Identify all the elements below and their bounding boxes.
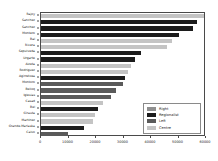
legend-item: Centre [147,125,197,131]
bar-row [41,39,206,43]
bar-row [41,70,206,74]
x-tick-label: 50000 [172,140,183,144]
bar-row [41,76,206,80]
y-tick-mark [37,70,39,71]
legend-swatch [147,126,156,130]
bar [41,70,128,74]
bar [41,132,68,136]
y-tick-label: Iglesias [23,94,35,97]
y-tick-mark [37,108,39,109]
y-tick-mark [37,83,39,84]
y-tick-mark [37,120,39,121]
bar [41,64,131,68]
y-tick-label: Rivera [25,44,35,47]
y-tick-mark [37,33,39,34]
y-tick-mark [37,114,39,115]
y-tick-mark [37,15,39,16]
y-tick-label: Montero [22,32,35,35]
bar [41,76,125,80]
y-tick-mark [37,101,39,102]
y-tick-mark [37,39,39,40]
bar [41,119,93,123]
legend-label: Right [159,107,168,111]
y-tick-label: Bel [30,106,35,109]
y-tick-label: Grande-Marlaska [9,125,35,128]
bar-chart-figure: RajoySanchezSanchezMonteroBalRiveraSepul… [0,0,218,161]
y-tick-mark [37,126,39,127]
x-tick-mark [40,136,41,138]
y-tick-mark [37,132,39,133]
x-tick-mark [178,136,179,138]
bar [41,20,197,24]
bar [41,39,172,43]
y-tick-mark [37,64,39,65]
legend-swatch [147,119,156,123]
y-tick-mark [37,21,39,22]
bar [41,88,116,92]
y-axis-labels: RajoySanchezSanchezMonteroBalRiveraSepul… [0,12,38,136]
y-tick-label: Martinez [22,119,35,122]
bar [41,57,135,61]
bar-row [41,14,206,18]
y-tick-label: Rajoy [26,13,35,16]
bar-row [41,26,206,30]
bar [41,33,179,37]
bar-row [41,45,206,49]
y-tick-mark [37,52,39,53]
x-tick-label: 60000 [200,140,211,144]
legend-swatch [147,107,156,111]
y-tick-label: Rodriguez [20,69,35,72]
x-tick-label: 40000 [145,140,156,144]
y-tick-label: Sanchez [22,26,35,29]
x-tick-label: 10000 [62,140,73,144]
bar-row [41,95,206,99]
bar [41,45,167,49]
bar [41,26,193,30]
y-tick-label: Belloq [25,88,35,91]
x-tick-mark [205,136,206,138]
y-tick-mark [37,89,39,90]
bar [41,51,141,55]
y-tick-mark [37,77,39,78]
legend-swatch [147,113,156,117]
y-tick-label: Agirretxea [19,75,35,78]
legend-label: Regionalist [159,113,179,117]
x-tick-label: 30000 [117,140,128,144]
bar-row [41,64,206,68]
bar [41,107,98,111]
bar [41,95,111,99]
bar [41,126,84,130]
x-axis-labels: 0100002000030000400005000060000 [40,137,205,149]
bar [41,113,95,117]
y-tick-label: Sanchez [22,20,35,23]
y-tick-label: Sepulveda [19,51,35,54]
x-tick-mark [123,136,124,138]
y-tick-label: Girauta [24,113,36,116]
legend-label: Left [159,119,166,123]
y-tick-mark [37,46,39,47]
y-tick-label: Aizeta [25,63,35,66]
bar [41,101,103,105]
y-tick-label: Montoro [22,82,35,85]
x-tick-mark [68,136,69,138]
bar-row [41,82,206,86]
bar-row [41,33,206,37]
chart-legend: RightRegionalistLeftCentre [143,103,201,134]
y-tick-mark [37,27,39,28]
y-tick-mark [37,95,39,96]
bar-row [41,88,206,92]
y-tick-label: Casad [25,100,35,103]
y-tick-mark [37,58,39,59]
x-tick-label: 0 [39,140,41,144]
legend-label: Centre [159,126,171,130]
bar [41,14,204,18]
bar [41,82,123,86]
bar-row [41,57,206,61]
bar-row [41,20,206,24]
x-tick-mark [150,136,151,138]
y-tick-label: Bal [30,38,35,41]
x-tick-label: 20000 [90,140,101,144]
y-tick-label: Calvo [26,131,35,134]
y-tick-label: Urgarte [23,57,35,60]
bar-row [41,51,206,55]
